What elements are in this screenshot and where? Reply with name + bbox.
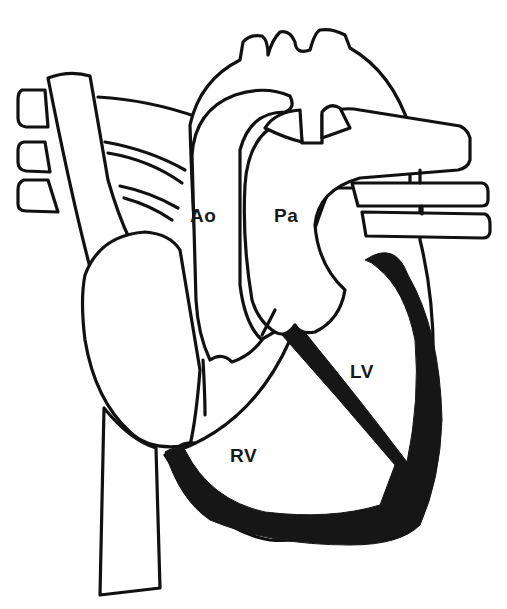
left-ventricle-label: LV	[350, 362, 374, 381]
tricuspid-line	[203, 360, 205, 415]
right-ventricle-label: RV	[230, 446, 257, 465]
right-atrium	[83, 232, 201, 447]
aorta-label: Ao	[190, 206, 216, 225]
heart-diagram: Ao Pa LV RV	[0, 0, 507, 609]
pulmonary-artery-label: Pa	[274, 206, 298, 225]
heart-drawing	[0, 0, 507, 609]
